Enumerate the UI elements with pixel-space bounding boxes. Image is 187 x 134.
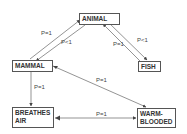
node-label-line2: BLOODED: [140, 118, 173, 126]
node-breathes-air: BREATHES AIR: [12, 107, 54, 128]
node-label: ANIMAL: [82, 15, 107, 22]
node-label-line1: WARM-: [140, 110, 173, 118]
edge-label-breathes-air-warm-blooded: P=1: [96, 111, 107, 117]
node-label: MAMMAL: [15, 62, 45, 69]
edge-label-fish-to-animal: P=1: [113, 41, 124, 47]
node-fish: FISH: [138, 61, 161, 72]
node-mammal: MAMMAL: [12, 60, 53, 72]
edge-label-mammal-breathes-air: P=1: [34, 84, 45, 90]
edge-label-animal-to-mammal: P<1: [61, 39, 72, 45]
edge-label-mammal-to-animal: P=1: [41, 30, 52, 36]
edge-mammal-to-animal: [30, 20, 80, 59]
node-label: FISH: [141, 63, 156, 70]
node-label-line1: BREATHES: [15, 109, 51, 117]
edge-label-mammal-warm-blooded: P=1: [96, 77, 107, 83]
node-warm-blooded: WARM- BLOODED: [137, 108, 176, 128]
node-animal: ANIMAL: [79, 13, 120, 25]
edge-label-animal-to-fish: P<1: [137, 37, 148, 43]
node-label-line2: AIR: [15, 117, 51, 125]
edge-mammal-warm-blooded: [53, 66, 146, 107]
